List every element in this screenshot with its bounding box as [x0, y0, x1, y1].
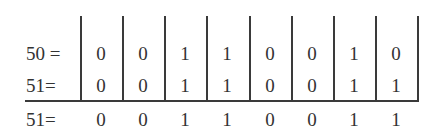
bit-cell: 0	[122, 44, 164, 64]
bit-cell: 0	[249, 110, 291, 130]
bit-cell: 1	[375, 110, 417, 130]
bit-cell: 0	[291, 110, 333, 130]
bit-cell: 1	[333, 110, 375, 130]
bit-cell: 0	[80, 44, 122, 64]
bit-cell: 1	[333, 76, 375, 96]
bit-cell: 0	[80, 110, 122, 130]
bit-cell: 1	[164, 110, 206, 130]
bit-cell: 1	[164, 44, 206, 64]
bit-cell: 0	[291, 76, 333, 96]
column-divider	[417, 16, 419, 102]
bit-cell: 0	[249, 44, 291, 64]
bit-cell: 0	[122, 110, 164, 130]
bit-cell: 0	[122, 76, 164, 96]
bit-cell: 1	[375, 76, 417, 96]
bit-cell: 0	[375, 44, 417, 64]
bit-cell: 0	[249, 76, 291, 96]
sum-rule-line	[25, 100, 418, 102]
bit-cell: 1	[206, 76, 248, 96]
row-label: 51=	[26, 76, 56, 96]
bit-cell: 0	[291, 44, 333, 64]
bit-cell: 1	[206, 110, 248, 130]
bit-cell: 0	[80, 76, 122, 96]
bit-cell: 1	[206, 44, 248, 64]
row-label: 50 =	[26, 44, 60, 64]
bit-cell: 1	[333, 44, 375, 64]
bit-cell: 1	[164, 76, 206, 96]
row-label: 51=	[26, 110, 56, 130]
